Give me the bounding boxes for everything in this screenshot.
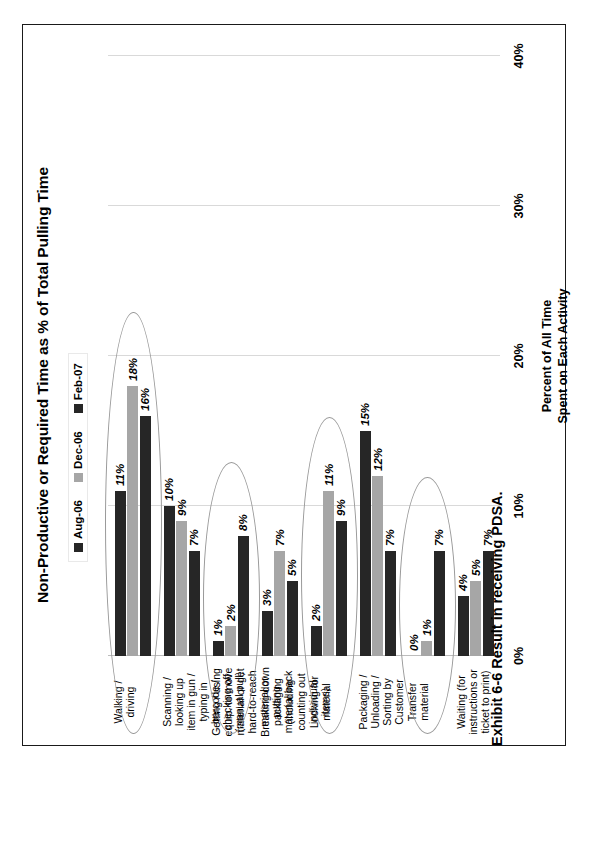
bar-value-label: 10% xyxy=(163,478,175,501)
category-label: Transfermaterial xyxy=(406,662,430,742)
chart-legend: Aug-06 Dec-06 Feb-07 xyxy=(68,353,88,562)
bar-group: 10%9%7%Scanning /looking upitem in gun /… xyxy=(157,56,206,656)
bar-dec-06 xyxy=(421,641,432,656)
bar-aug-06 xyxy=(434,551,445,656)
bar-dec-06 xyxy=(470,581,481,656)
category-label-line: (including xyxy=(283,662,295,742)
legend-item-feb07: Feb-07 xyxy=(72,363,84,413)
legend-swatch-feb07 xyxy=(74,404,83,413)
tick-label-30%: 30% xyxy=(512,193,526,218)
category-label-line: material xyxy=(320,662,332,742)
category-label-line: material or get xyxy=(234,662,246,742)
bar-value-label: 18% xyxy=(127,358,139,381)
exhibit-page: Non-Productive or Required Time as % of … xyxy=(0,0,590,858)
plot-area: 11%18%16%Walking /driving10%9%7%Scanning… xyxy=(108,56,500,656)
bar-feb-07 xyxy=(262,611,273,656)
bar-value-label: 5% xyxy=(470,559,482,576)
category-label-line: equip. to move xyxy=(222,662,234,742)
chart-frame: Non-Productive or Required Time as % of … xyxy=(22,24,566,746)
category-label-line: instructions or xyxy=(467,662,479,742)
tick-label-40%: 40% xyxy=(512,43,526,68)
legend-item-dec06: Dec-06 xyxy=(72,431,84,482)
category-label-line: Breaking down xyxy=(259,662,271,742)
bar-chart: Non-Productive or Required Time as % of … xyxy=(24,26,564,744)
category-label-line: Packaging / xyxy=(357,662,369,742)
legend-label-dec06: Dec-06 xyxy=(72,431,84,469)
bar-dec-06 xyxy=(176,521,187,656)
bar-value-label: 5% xyxy=(286,559,298,576)
category-label-line: counting out xyxy=(295,662,307,742)
category-label-line: Waiting (for xyxy=(455,662,467,742)
bar-group: 3%7%5%Breaking downpackaging(includingco… xyxy=(255,56,304,656)
bar-feb-07 xyxy=(115,491,126,656)
bar-dec-06 xyxy=(323,491,334,656)
bar-aug-06 xyxy=(140,416,151,656)
bar-value-label: 11% xyxy=(114,464,126,486)
category-label-line: Looking for xyxy=(308,662,320,742)
value-axis-title-line1: Percent of All Time xyxy=(540,56,556,656)
bar-value-label: 2% xyxy=(225,604,237,621)
category-label-line: looking up xyxy=(173,662,185,742)
bar-value-label: 7% xyxy=(188,529,200,546)
legend-swatch-aug06 xyxy=(74,543,83,552)
category-label: Waiting (forinstructions orticket to pri… xyxy=(455,662,491,742)
value-axis-title: Percent of All Time Spent on Each Activi… xyxy=(540,56,571,656)
bar-feb-07 xyxy=(213,641,224,656)
bar-value-label: 4% xyxy=(457,574,469,591)
rotated-chart-wrapper: Non-Productive or Required Time as % of … xyxy=(24,26,564,744)
bar-feb-07 xyxy=(360,431,371,656)
tick-label-0%: 0% xyxy=(512,647,526,665)
bar-feb-07 xyxy=(311,626,322,656)
bar-value-label: 0% xyxy=(408,634,420,651)
legend-item-aug06: Aug-06 xyxy=(72,500,84,552)
bar-dec-06 xyxy=(274,551,285,656)
bar-dec-06 xyxy=(372,476,383,656)
bar-feb-07 xyxy=(164,506,175,656)
bar-value-label: 8% xyxy=(237,514,249,531)
bar-group: 0%1%7%Transfermaterial xyxy=(402,56,451,656)
category-label-line: Sorting by xyxy=(381,662,393,742)
category-label-line: Scanning / xyxy=(161,662,173,742)
legend-label-aug06: Aug-06 xyxy=(72,500,84,539)
bar-value-label: 1% xyxy=(421,619,433,636)
category-label-line: packaging xyxy=(271,662,283,742)
bar-group: 1%2%8%Getting / usingequip. to movemater… xyxy=(206,56,255,656)
bar-value-label: 12% xyxy=(372,448,384,471)
bar-feb-07 xyxy=(458,596,469,656)
bar-group: 15%12%7%Packaging /Unloading /Sorting by… xyxy=(353,56,402,656)
bar-group: 11%18%16%Walking /driving xyxy=(108,56,157,656)
bar-value-label: 3% xyxy=(261,589,273,606)
bar-value-label: 7% xyxy=(274,529,286,546)
bar-value-label: 11% xyxy=(323,464,335,486)
bar-value-label: 7% xyxy=(433,529,445,546)
value-axis-title-line2: Spent on Each Activity xyxy=(556,56,572,656)
bar-aug-06 xyxy=(336,521,347,656)
bar-dec-06 xyxy=(127,386,138,656)
category-label-line: driving xyxy=(124,662,136,742)
category-label-line: material xyxy=(418,662,430,742)
category-label-line: Transfer xyxy=(406,662,418,742)
exhibit-caption: Exhibit 6-6 Result in receiving PDSA. xyxy=(489,316,505,746)
bar-value-label: 2% xyxy=(310,604,322,621)
bar-value-label: 1% xyxy=(212,619,224,636)
tick-label-10%: 10% xyxy=(512,493,526,518)
category-label-line: item in gun / xyxy=(185,662,197,742)
category-label-line: Unloading / xyxy=(369,662,381,742)
category-label-line: hard-to-reach xyxy=(246,662,258,742)
chart-title: Non-Productive or Required Time as % of … xyxy=(34,26,52,744)
bar-value-label: 9% xyxy=(335,499,347,516)
legend-swatch-dec06 xyxy=(74,473,83,482)
bar-aug-06 xyxy=(189,551,200,656)
category-label-line: Walking / xyxy=(112,662,124,742)
bar-dec-06 xyxy=(225,626,236,656)
bar-value-label: 15% xyxy=(359,403,371,426)
bar-value-label: 16% xyxy=(139,388,151,411)
category-label: Walking /driving xyxy=(112,662,136,742)
bar-aug-06 xyxy=(385,551,396,656)
tick-label-20%: 20% xyxy=(512,343,526,368)
bar-value-label: 9% xyxy=(176,499,188,516)
category-label-line: Getting / using xyxy=(210,662,222,742)
category-label: Packaging /Unloading /Sorting byCustomer xyxy=(357,662,405,742)
legend-label-feb07: Feb-07 xyxy=(72,363,84,400)
bar-value-label: 7% xyxy=(384,529,396,546)
